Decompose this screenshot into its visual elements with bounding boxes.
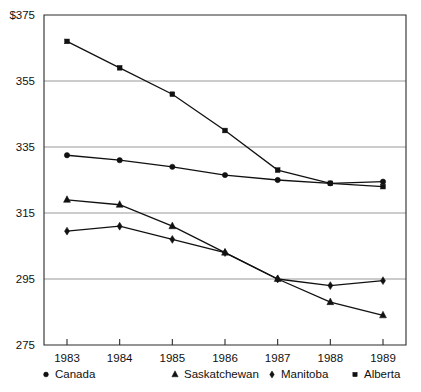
data-point-alberta-1985 (170, 92, 175, 97)
y-axis-tick-label: 275 (16, 339, 35, 351)
data-point-alberta-1988 (328, 181, 333, 186)
data-point-canada-1986 (222, 172, 227, 177)
y-axis-tick-label: 335 (16, 141, 35, 153)
x-axis-tick-label: 1986 (212, 352, 238, 364)
data-point-canada-1984 (117, 158, 122, 163)
data-point-alberta-1987 (275, 168, 280, 173)
y-axis-tick-label: $375 (9, 9, 35, 21)
legend-marker-manitoba (270, 371, 275, 378)
x-axis-tick-label: 1988 (318, 352, 344, 364)
legend-label-canada: Canada (55, 368, 96, 380)
line-chart: $375355335315295275198319841985198619871… (0, 0, 421, 392)
data-point-alberta-1984 (117, 65, 122, 70)
legend-marker-saskatchewan (172, 371, 178, 377)
legend-label-saskatchewan: Saskatchewan (184, 368, 259, 380)
data-point-alberta-1983 (65, 39, 70, 44)
x-axis-tick-label: 1985 (160, 352, 186, 364)
chart-canvas: $375355335315295275198319841985198619871… (0, 0, 421, 392)
legend-label-alberta: Alberta (364, 368, 401, 380)
y-axis-tick-label: 315 (16, 207, 35, 219)
data-point-alberta-1989 (381, 184, 386, 189)
x-axis-tick-label: 1984 (107, 352, 133, 364)
data-point-canada-1987 (275, 177, 280, 182)
y-axis-tick-label: 295 (16, 273, 35, 285)
plot-area-background (44, 15, 406, 345)
data-point-alberta-1986 (223, 128, 228, 133)
y-axis-tick-label: 355 (16, 75, 35, 87)
x-axis-tick-label: 1983 (54, 352, 80, 364)
legend-marker-canada (44, 372, 49, 377)
data-point-canada-1985 (170, 164, 175, 169)
x-axis-tick-label: 1989 (370, 352, 396, 364)
legend-marker-alberta (353, 372, 357, 376)
legend-label-manitoba: Manitoba (281, 368, 329, 380)
data-point-canada-1983 (64, 153, 69, 158)
data-point-canada-1989 (380, 179, 385, 184)
x-axis-tick-label: 1987 (265, 352, 291, 364)
